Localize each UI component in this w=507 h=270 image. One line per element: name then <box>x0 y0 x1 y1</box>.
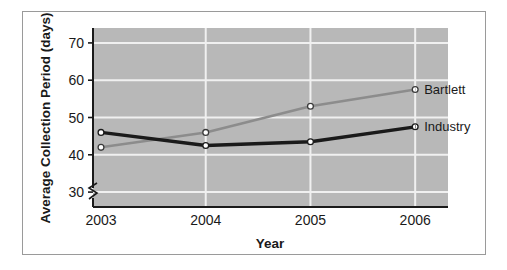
x-tick-label-2003: 2003 <box>85 212 116 228</box>
y-tick-label-70: 70 <box>68 35 84 51</box>
x-tick-label-2006: 2006 <box>400 212 431 228</box>
y-tick-label-40: 40 <box>68 147 84 163</box>
x-tick-label-2005: 2005 <box>295 212 326 228</box>
chart-figure: 3040506070 2003200420052006 Bartlett Ind… <box>0 0 507 270</box>
marker-industry-2004 <box>203 143 209 149</box>
x-tick-label-2004: 2004 <box>190 212 221 228</box>
y-tick-label-60: 60 <box>68 72 84 88</box>
marker-industry-2003 <box>98 130 104 136</box>
series-label-bartlett: Bartlett <box>424 82 466 97</box>
y-axis-title: Average Collection Period (days) <box>38 12 53 223</box>
x-axis-title: Year <box>256 236 285 251</box>
series-label-industry: Industry <box>424 119 471 134</box>
marker-bartlett-2003 <box>98 144 104 150</box>
marker-industry-2005 <box>308 139 314 145</box>
marker-bartlett-2004 <box>203 130 209 136</box>
y-tick-label-30: 30 <box>68 184 84 200</box>
marker-bartlett-2005 <box>308 103 314 109</box>
y-axis-tick-labels: 3040506070 <box>68 35 84 200</box>
y-tick-label-50: 50 <box>68 110 84 126</box>
line-chart: 3040506070 2003200420052006 Bartlett Ind… <box>0 0 507 270</box>
x-axis-tick-labels: 2003200420052006 <box>85 212 431 228</box>
